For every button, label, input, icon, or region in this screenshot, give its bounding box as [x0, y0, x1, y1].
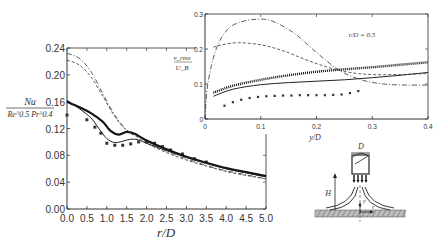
inset-annotation: r/D = 0.5 [349, 31, 376, 39]
diameter-label: D [357, 142, 364, 151]
inset-y-label-denominator: U_B [176, 64, 190, 72]
y-tick-label: 0.20 [46, 70, 66, 81]
x-tick-label: 4.0 [219, 213, 233, 224]
y-tick-label: 0.3 [194, 11, 203, 18]
x-tick-label: 2.5 [160, 213, 174, 224]
x-tick-label: 1.0 [100, 213, 114, 224]
y-axis-label-denominator: Re^0.5 Pr^0.4 [6, 110, 52, 119]
y-tick-label: 0.12 [46, 124, 66, 135]
y-tick-label: 0.04 [46, 177, 66, 188]
y-tick-label: 0.2 [194, 46, 203, 53]
x-tick-label: 0.2 [312, 123, 321, 130]
y-tick-label: 0.1 [194, 81, 203, 88]
x-axis-label: r/D [157, 225, 176, 240]
y-axis-label-numerator: Nu [23, 96, 36, 107]
x-tick-label: 0.3 [368, 123, 377, 130]
y-tick-label: 0 [199, 116, 203, 123]
x-tick-label: 4.5 [239, 213, 253, 224]
x-tick-label: 3.0 [179, 213, 193, 224]
chart-figure: 0.00.51.01.52.02.53.03.54.04.55.00.000.0… [0, 0, 443, 244]
height-label: H [324, 189, 332, 198]
inset-y-label-numerator: v_rms [173, 54, 190, 62]
y-tick-label: 0.24 [46, 43, 66, 54]
axial-label: y [362, 198, 366, 204]
x-tick-label: 5.0 [259, 213, 273, 224]
x-tick-label: 2.0 [140, 213, 154, 224]
nozzle [352, 155, 369, 174]
x-tick-label: 3.5 [199, 213, 213, 224]
x-tick-label: 0 [203, 123, 207, 130]
x-tick-label: 0.4 [423, 123, 432, 130]
x-tick-label: 0.1 [256, 123, 265, 130]
x-tick-label: 0.5 [80, 213, 94, 224]
y-tick-label: 0.00 [46, 204, 66, 215]
inset-x-axis-label: y/D [308, 133, 321, 142]
x-tick-label: 1.5 [120, 213, 134, 224]
y-tick-label: 0.16 [46, 97, 66, 108]
y-tick-label: 0.08 [46, 150, 66, 161]
jet-diagram: DHyr [315, 142, 406, 222]
